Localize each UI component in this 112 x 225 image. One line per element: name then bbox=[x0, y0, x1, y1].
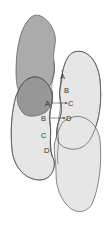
label-right-d: D bbox=[66, 114, 72, 123]
label-left-b: B bbox=[41, 114, 46, 123]
label-right-b: B bbox=[64, 86, 69, 95]
label-left-a: A bbox=[45, 99, 50, 108]
blob-diagram: A B C D A B C D bbox=[0, 0, 112, 225]
label-left-c: C bbox=[41, 131, 47, 140]
label-right-a: A bbox=[60, 72, 65, 81]
label-left-d: D bbox=[44, 146, 50, 155]
label-right-c: C bbox=[68, 99, 74, 108]
right-bottom-blob bbox=[54, 116, 100, 211]
